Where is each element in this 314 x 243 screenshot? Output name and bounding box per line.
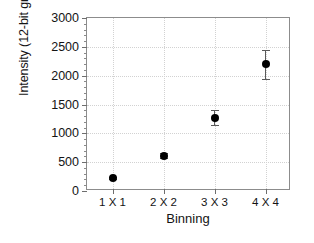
plot-area: 0500100015002000250030001 X 12 X 23 X 34… — [86, 17, 290, 190]
y-axis-minor-tick — [84, 58, 87, 59]
y-axis-minor-tick — [84, 156, 87, 157]
y-gridline — [87, 76, 289, 77]
data-marker — [262, 60, 270, 68]
y-axis-minor-tick — [84, 139, 87, 140]
x-axis-tick-label: 4 X 4 — [252, 196, 279, 208]
x-gridline — [113, 18, 114, 189]
y-axis-minor-tick — [84, 70, 87, 71]
y-axis-tick-label: 2000 — [51, 69, 79, 83]
y-axis-tick-label: 3000 — [51, 11, 79, 25]
y-axis-title-container: Intensity (12-bit grey levels) — [0, 0, 34, 200]
x-gridline — [164, 18, 165, 189]
y-gridline — [87, 105, 289, 106]
y-axis-minor-tick — [84, 99, 87, 100]
y-axis-minor-tick — [84, 93, 87, 94]
y-axis-tick-label: 1500 — [51, 98, 79, 112]
y-axis-minor-tick — [84, 30, 87, 31]
x-axis-tick — [113, 189, 114, 194]
y-axis-minor-tick — [84, 24, 87, 25]
y-gridline — [87, 162, 289, 163]
y-axis-tick-label: 500 — [58, 155, 79, 169]
y-axis-minor-tick — [84, 151, 87, 152]
error-bar-cap-upper — [211, 110, 219, 111]
x-gridline — [266, 18, 267, 189]
y-axis-minor-tick — [84, 53, 87, 54]
y-axis-tick-label: 2500 — [51, 40, 79, 54]
x-axis-tick-label: 2 X 2 — [150, 196, 177, 208]
y-axis-tick — [82, 105, 87, 106]
x-axis-tick — [164, 189, 165, 194]
y-axis-tick — [82, 76, 87, 77]
y-axis-tick — [82, 18, 87, 19]
y-axis-title: Intensity (12-bit grey levels) — [17, 0, 31, 111]
y-axis-tick — [82, 191, 87, 192]
x-axis-tick — [215, 189, 216, 194]
y-axis-minor-tick — [84, 87, 87, 88]
x-axis-tick-label: 1 X 1 — [99, 196, 126, 208]
data-marker — [211, 114, 219, 122]
error-bar-cap-lower — [262, 79, 270, 80]
y-axis-tick — [82, 47, 87, 48]
error-bar-cap-upper — [262, 50, 270, 51]
y-axis-tick — [82, 133, 87, 134]
y-axis-minor-tick — [84, 41, 87, 42]
y-axis-minor-tick — [84, 179, 87, 180]
y-axis-minor-tick — [84, 145, 87, 146]
y-axis-minor-tick — [84, 174, 87, 175]
y-axis-minor-tick — [84, 168, 87, 169]
y-axis-tick — [82, 162, 87, 163]
y-gridline — [87, 47, 289, 48]
y-axis-minor-tick — [84, 35, 87, 36]
error-bar-cap-lower — [211, 125, 219, 126]
x-axis-tick — [266, 189, 267, 194]
y-axis-tick-label: 1000 — [51, 126, 79, 140]
y-axis-minor-tick — [84, 185, 87, 186]
x-gridline — [215, 18, 216, 189]
x-axis-tick-label: 3 X 3 — [201, 196, 228, 208]
chart-figure: Intensity (12-bit grey levels) 050010001… — [0, 0, 314, 243]
y-axis-minor-tick — [84, 116, 87, 117]
data-marker — [109, 174, 117, 182]
y-axis-minor-tick — [84, 81, 87, 82]
y-axis-tick-label: 0 — [72, 184, 79, 198]
y-axis-minor-tick — [84, 110, 87, 111]
data-marker — [160, 152, 168, 160]
x-axis-title: Binning — [86, 211, 290, 226]
y-gridline — [87, 133, 289, 134]
y-axis-minor-tick — [84, 128, 87, 129]
y-axis-minor-tick — [84, 64, 87, 65]
y-axis-minor-tick — [84, 122, 87, 123]
